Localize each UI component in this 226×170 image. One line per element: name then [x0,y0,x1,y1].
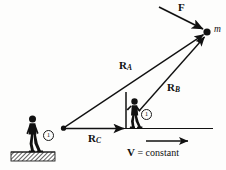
moving-observer-figure [126,98,142,128]
vector-rb-base: R [167,81,175,93]
moving-observer-badge: 1 [141,109,152,120]
velocity-label: V = constant [127,147,179,158]
vector-rc-label: RC [88,133,101,145]
velocity-symbol: V [127,146,135,158]
vector-ra-label: RA [119,60,132,72]
origin-point [61,126,66,131]
mass-label: m [214,25,221,35]
vector-rc-base: R [88,132,96,144]
vector-ra-subscript: A [127,63,132,72]
stationary-observer-badge: 1 [43,130,54,141]
velocity-value-text: = constant [135,147,179,158]
force-label: F [178,2,185,13]
physics-figure: F m RA RB RC V = constant 1 1 [0,0,226,170]
hatched-ground-block [11,152,55,161]
figure-canvas [0,0,226,170]
vector-rc-subscript: C [96,136,101,145]
vector-ra-base: R [119,59,127,71]
vector-rb-label: RB [167,82,180,94]
vector-rb-arrow [139,37,205,111]
stationary-observer-figure [26,116,43,153]
mass-point [203,28,210,35]
vector-rb-subscript: B [175,85,180,94]
